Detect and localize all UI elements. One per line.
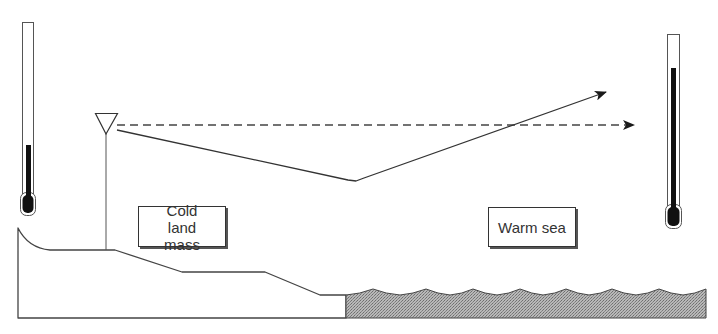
warm-sea-label: Warm sea: [488, 207, 576, 247]
cold-land-mass-text: Cold land mass: [151, 202, 213, 253]
sea-surface: [346, 289, 706, 318]
right-thermometer-icon: [666, 35, 682, 229]
cold-land-mass-label: Cold land mass: [138, 206, 226, 247]
diagram-svg: [0, 0, 718, 334]
diagram-canvas: Cold land mass Warm sea: [0, 0, 718, 334]
observer-triangle-icon: [96, 114, 118, 135]
warm-sea-text: Warm sea: [498, 219, 566, 236]
refracted-ray-arrow: [117, 92, 606, 181]
left-thermometer-icon: [21, 23, 36, 216]
